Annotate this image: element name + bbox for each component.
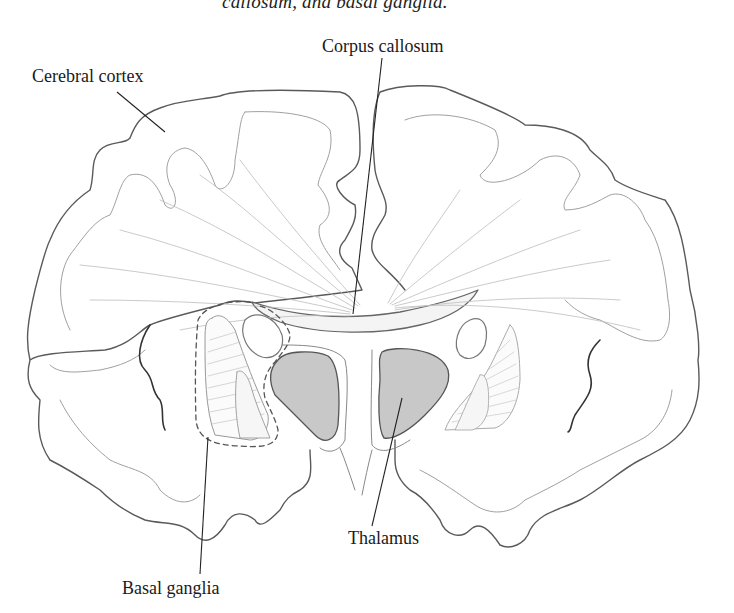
right-globus-pallidus <box>455 375 489 430</box>
left-lateral-sulcus <box>140 325 165 430</box>
label-corpus-callosum: Corpus callosum <box>322 36 444 57</box>
label-cerebral-cortex: Cerebral cortex <box>32 66 143 87</box>
callosal-fibers <box>80 160 640 330</box>
corpus-callosum-shape <box>252 290 478 332</box>
midline-gap <box>340 448 372 495</box>
leader-corpus-callosum <box>353 58 382 314</box>
label-basal-ganglia: Basal ganglia <box>122 578 219 599</box>
leader-basal-ganglia <box>200 437 208 574</box>
right-ventricle <box>456 319 486 359</box>
right-thalamus <box>379 349 449 439</box>
brain-coronal-section-diagram <box>0 0 734 613</box>
leader-cerebral-cortex <box>117 92 165 132</box>
left-thalamus <box>271 352 339 440</box>
left-ventricle <box>243 315 283 358</box>
right-lateral-sulcus <box>568 340 600 432</box>
label-thalamus: Thalamus <box>348 528 419 549</box>
